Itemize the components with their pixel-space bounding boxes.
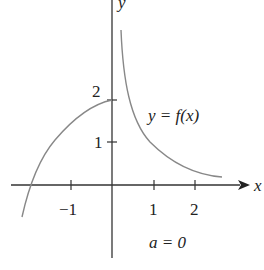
x-tick-label: 1 — [149, 200, 158, 219]
function-graph: x y −1 1 2 1 2 y = f(x) a = 0 — [0, 0, 264, 270]
x-tick-label: 2 — [190, 200, 199, 219]
y-tick-label: 2 — [92, 82, 101, 101]
right-curve — [121, 30, 222, 177]
x-axis-label: x — [253, 176, 262, 195]
x-tick-label: −1 — [59, 200, 77, 219]
y-tick-label: 1 — [94, 133, 103, 152]
y-axis-label: y — [116, 0, 126, 12]
curve-label: y = f(x) — [146, 106, 199, 125]
parameter-label: a = 0 — [149, 233, 186, 252]
